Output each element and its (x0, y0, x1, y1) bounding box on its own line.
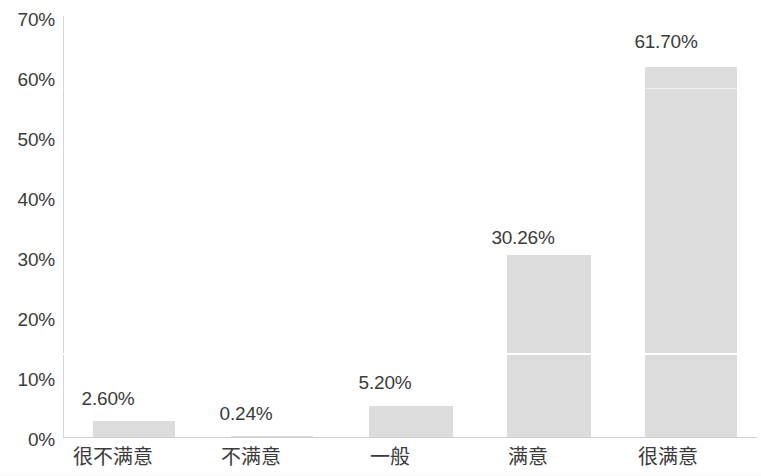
x-axis-category-label: 一般 (320, 447, 460, 467)
y-axis-tick-label: 20% (0, 310, 55, 329)
bar-value-label: 30.26% (468, 228, 578, 247)
bar-value-label: 61.70% (611, 32, 721, 51)
x-axis-category-label: 很满意 (598, 447, 738, 467)
x-axis-category-label: 很不满意 (43, 447, 183, 467)
bar-very-dissatisfied (93, 421, 175, 437)
bar-value-label: 0.24% (191, 404, 301, 423)
x-axis-category-label: 不满意 (181, 447, 321, 467)
y-axis-tick-label: 40% (0, 190, 55, 209)
y-axis-tick-label: 50% (0, 130, 55, 149)
bar-satisfied (507, 255, 591, 437)
bar-chart: 70% 60% 50% 40% 30% 20% 10% 0% 2.60% 0.2… (0, 0, 761, 476)
y-axis-tick-label: 70% (0, 10, 55, 29)
x-axis-category-label: 满意 (458, 447, 598, 467)
bar-dissatisfied (231, 436, 313, 437)
y-axis-tick-label: 10% (0, 370, 55, 389)
bar-value-label: 2.60% (53, 389, 163, 408)
bar-very-satisfied (645, 67, 737, 437)
scan-artifact-line-upper (63, 88, 757, 89)
bar-neutral (369, 406, 453, 437)
scan-artifact-line (63, 353, 757, 355)
y-axis-tick-label: 30% (0, 250, 55, 269)
y-axis-tick-label: 60% (0, 70, 55, 89)
x-axis-line (63, 437, 757, 438)
bar-value-label: 5.20% (330, 373, 440, 392)
